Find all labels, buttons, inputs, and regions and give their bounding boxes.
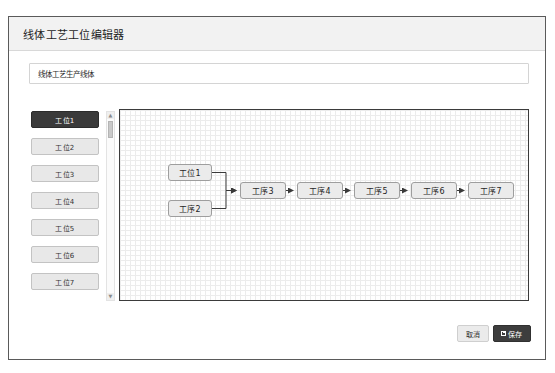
station-item-label: 工位1 [55, 115, 74, 125]
station-list-scrollbar[interactable]: ▲ ▼ [106, 111, 115, 301]
save-icon [501, 331, 506, 336]
station-item-label: 工位6 [55, 250, 74, 260]
flow-node[interactable]: 工序5 [354, 182, 400, 199]
dialog-header: 线体工艺工位编辑器 [9, 17, 545, 51]
process-flow-canvas[interactable]: 工位1工序2工序3工序4工序5工序6工序7 [119, 109, 529, 301]
station-list-item[interactable]: 工位2 [31, 138, 99, 155]
station-list-item[interactable]: 工位5 [31, 219, 99, 236]
scroll-up-arrow-icon[interactable]: ▲ [107, 112, 114, 119]
station-list-item[interactable]: 工位7 [31, 273, 99, 290]
flow-edge [212, 191, 236, 209]
editor-body: 工位1工位2工位3工位4工位5工位6工位7 ▲ ▼ 工位1工序2工序3工序4工序… [9, 97, 545, 315]
flow-node-label: 工序3 [252, 185, 274, 196]
flow-node-label: 工序2 [179, 203, 201, 214]
station-item-label: 工位2 [55, 142, 74, 152]
flow-node[interactable]: 工序6 [411, 182, 457, 199]
flow-edge [212, 173, 236, 191]
station-list-item[interactable]: 工位6 [31, 246, 99, 263]
station-list-item[interactable]: 工位1 [31, 111, 99, 128]
dialog-title: 线体工艺工位编辑器 [23, 26, 125, 42]
save-button-label: 保存 [508, 329, 523, 339]
station-item-label: 工位7 [55, 277, 74, 287]
scrollbar-thumb[interactable] [108, 121, 113, 138]
station-item-label: 工位4 [55, 196, 74, 206]
station-list-item[interactable]: 工位3 [31, 165, 99, 182]
flow-node-label: 工序4 [309, 185, 331, 196]
station-item-label: 工位5 [55, 223, 74, 233]
flow-node[interactable]: 工序2 [168, 200, 212, 217]
flow-node[interactable]: 工序4 [297, 182, 343, 199]
flow-node[interactable]: 工序3 [240, 182, 286, 199]
flow-node[interactable]: 工序7 [468, 182, 514, 199]
cancel-button[interactable]: 取消 [457, 325, 489, 342]
name-field-row [9, 51, 545, 97]
dialog-footer: 取消 保存 [9, 313, 545, 359]
flow-node-label: 工位1 [179, 167, 201, 178]
save-button[interactable]: 保存 [493, 325, 531, 342]
screen: 线体工艺工位编辑器 工位1工位2工位3工位4工位5工位6工位7 ▲ ▼ [0, 0, 555, 373]
line-name-input[interactable] [29, 63, 529, 84]
scroll-down-arrow-icon[interactable]: ▼ [107, 293, 114, 300]
station-list-item[interactable]: 工位4 [31, 192, 99, 209]
flow-node-label: 工序5 [366, 185, 388, 196]
flow-node-label: 工序6 [423, 185, 445, 196]
station-list[interactable]: 工位1工位2工位3工位4工位5工位6工位7 [31, 111, 99, 301]
station-editor-dialog: 线体工艺工位编辑器 工位1工位2工位3工位4工位5工位6工位7 ▲ ▼ [8, 16, 546, 360]
flow-node-label: 工序7 [480, 185, 502, 196]
flow-node[interactable]: 工位1 [168, 164, 212, 181]
station-item-label: 工位3 [55, 169, 74, 179]
